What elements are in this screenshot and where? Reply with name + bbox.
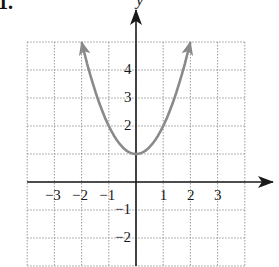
x-tick-label: 1 [160,188,168,203]
y-tick-label: 4 [124,62,132,77]
x-tick-label: 2 [187,188,195,203]
y-tick-label: 3 [124,90,132,105]
y-tick-label: 2 [124,118,132,133]
x-tick-label: 3 [214,188,222,203]
x-tick-label: −1 [99,188,115,203]
x-tick-label: −3 [45,188,61,203]
y-tick-label: −2 [115,230,131,245]
y-tick-label: −1 [115,202,131,217]
parabola-graph [0,0,279,267]
x-tick-label: −2 [72,188,88,203]
